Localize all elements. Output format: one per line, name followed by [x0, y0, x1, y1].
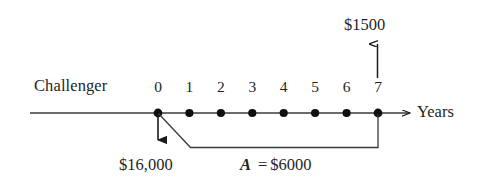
annual-cost-bracket-path [159, 114, 379, 148]
year-marker-4 [280, 109, 288, 117]
tick-label-0: 0 [149, 79, 167, 95]
axis-label-years: Years [417, 104, 454, 121]
tick-label-7: 7 [369, 79, 387, 95]
annual-cost-symbol: A [240, 155, 253, 174]
tick-label-4: 4 [275, 79, 293, 95]
year-marker-3 [248, 109, 256, 117]
annual-cost-bracket [159, 114, 379, 148]
tick-label-1: 1 [180, 79, 198, 95]
tick-label-2: 2 [212, 79, 230, 95]
annual-cost-equals: = [253, 155, 270, 174]
cash-flow-diagram: Challenger Years 0 1 2 3 4 5 6 7 $1500 $… [0, 0, 489, 187]
tick-label-5: 5 [306, 79, 324, 95]
year-marker-6 [343, 109, 351, 117]
annual-cost-label: A=$6000 [240, 157, 312, 174]
year-marker-2 [217, 109, 225, 117]
initial-cost-label: $16,000 [119, 157, 173, 174]
tick-label-6: 6 [338, 79, 356, 95]
tick-label-3: 3 [243, 79, 261, 95]
year-marker-1 [185, 109, 193, 117]
annual-cost-amount: $6000 [270, 155, 311, 174]
year-marker-5 [311, 109, 319, 117]
salvage-value-label: $1500 [344, 17, 385, 34]
alternative-label: Challenger [34, 78, 107, 95]
